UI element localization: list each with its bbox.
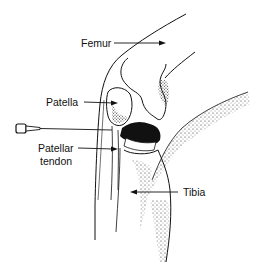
- tibia-arrowhead: [130, 190, 137, 195]
- patellar-tendon-arrow: [78, 148, 114, 149]
- thigh-inner-line: [165, 52, 195, 78]
- femoral-condyle-shading: [158, 80, 169, 106]
- knee-illustration: [0, 0, 256, 277]
- syringe-hub: [16, 124, 26, 133]
- needle: [40, 129, 112, 131]
- femur-label: Femur: [81, 37, 111, 49]
- femur-arrowhead: [159, 41, 166, 46]
- tibia-shaft-shading: [150, 200, 169, 262]
- knee-aspiration-diagram: Femur Patella Patellar tendon Tibia: [0, 0, 256, 277]
- patellar-tendon: [111, 126, 118, 200]
- needle-taper: [26, 126, 40, 131]
- patellar-tendon-arrowhead: [111, 147, 118, 152]
- calf-posterior-shading: [146, 92, 250, 200]
- patella-label: Patella: [46, 96, 78, 108]
- patellar-tendon-label-line1: Patellar: [38, 142, 74, 154]
- tibia-shading: [132, 160, 152, 230]
- tibia-label: Tibia: [183, 186, 205, 198]
- patellar-tendon-label-line2: tendon: [40, 155, 72, 167]
